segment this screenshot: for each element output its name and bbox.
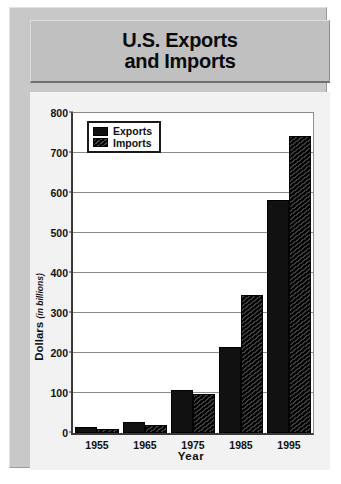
y-axis-title-units: (in billions) bbox=[35, 273, 45, 318]
plot-canvas: 0100200300400500600700800 Exports Import… bbox=[71, 112, 314, 435]
hatched-dark-swatch-icon bbox=[93, 138, 108, 147]
chart-page: U.S. Exports and Imports Dollars (in bil… bbox=[0, 0, 341, 484]
y-axis-tick-label: 100 bbox=[50, 387, 68, 399]
bar-exports-1985 bbox=[219, 347, 241, 433]
bar-imports-1965 bbox=[145, 425, 167, 433]
legend-label-exports: Exports bbox=[113, 126, 152, 137]
bar-exports-1955 bbox=[75, 427, 97, 433]
bar-group: 1955 bbox=[73, 113, 121, 433]
chart-legend: Exports Imports bbox=[87, 121, 161, 153]
bar-imports-1985 bbox=[241, 295, 263, 433]
bar-imports-1955 bbox=[97, 429, 119, 433]
bar-exports-1975 bbox=[171, 390, 193, 433]
title-banner: U.S. Exports and Imports bbox=[30, 20, 330, 83]
y-axis-tick-label: 800 bbox=[50, 107, 68, 119]
page-title-line-1: U.S. Exports bbox=[122, 30, 237, 51]
legend-label-imports: Imports bbox=[113, 138, 152, 149]
chart-card: U.S. Exports and Imports Dollars (in bil… bbox=[9, 7, 327, 468]
x-axis-title: Year bbox=[71, 450, 311, 462]
y-axis-tick-label: 500 bbox=[50, 227, 68, 239]
page-title-line-2: and Imports bbox=[124, 51, 235, 72]
bar-group: 1995 bbox=[265, 113, 313, 433]
bar-group: 1985 bbox=[217, 113, 265, 433]
legend-item-exports: Exports bbox=[93, 126, 152, 137]
y-axis-title: Dollars (in billions) bbox=[28, 242, 50, 392]
bar-exports-1995 bbox=[267, 200, 289, 433]
y-axis-title-main: Dollars bbox=[33, 322, 45, 361]
solid-dark-swatch-icon bbox=[93, 127, 108, 136]
bar-groups: 19551965197519851995 bbox=[73, 113, 313, 433]
bar-imports-1995 bbox=[289, 136, 311, 433]
y-axis-tick-label: 0 bbox=[62, 427, 68, 439]
bar-exports-1965 bbox=[123, 422, 145, 433]
bar-imports-1975 bbox=[193, 394, 215, 433]
y-axis-tick-label: 300 bbox=[50, 307, 68, 319]
y-axis-tick-label: 600 bbox=[50, 187, 68, 199]
legend-item-imports: Imports bbox=[93, 138, 152, 149]
y-axis-tick-label: 200 bbox=[50, 347, 68, 359]
bar-group: 1965 bbox=[121, 113, 169, 433]
chart-plot-area: Dollars (in billions) 010020030040050060… bbox=[30, 92, 330, 470]
y-axis-tick-label: 400 bbox=[50, 267, 68, 279]
y-axis-tick-label: 700 bbox=[50, 147, 68, 159]
bar-group: 1975 bbox=[169, 113, 217, 433]
